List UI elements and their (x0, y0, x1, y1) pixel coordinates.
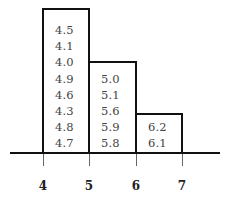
value-item: 4.3 (55, 103, 74, 119)
x-tick-5 (89, 154, 90, 166)
x-tick-label-5: 5 (79, 179, 99, 193)
value-item: 5.9 (101, 119, 120, 135)
bin-5-6-values: 5.0 5.1 5.6 5.9 5.8 (90, 71, 135, 151)
x-axis-line (10, 152, 220, 154)
x-tick-label-7: 7 (172, 179, 192, 193)
bin-5-6: 5.0 5.1 5.6 5.9 5.8 (88, 61, 137, 153)
bin-6-7: 6.2 6.1 (135, 113, 183, 153)
value-item: 5.8 (101, 135, 120, 151)
x-tick-4 (43, 154, 44, 166)
bin-4-5: 4.5 4.1 4.0 4.9 4.6 4.3 4.8 4.7 (42, 8, 90, 153)
value-item: 5.0 (101, 71, 120, 87)
value-item: 4.6 (55, 87, 74, 103)
value-item: 4.1 (55, 38, 74, 54)
value-item: 4.8 (55, 119, 74, 135)
value-item: 4.0 (55, 54, 74, 70)
bin-4-5-values: 4.5 4.1 4.0 4.9 4.6 4.3 4.8 4.7 (44, 22, 88, 151)
x-tick-label-4: 4 (33, 179, 53, 193)
x-tick-label-6: 6 (126, 179, 146, 193)
x-tick-7 (182, 154, 183, 166)
value-item: 4.5 (55, 22, 74, 38)
bin-6-7-values: 6.2 6.1 (137, 119, 181, 151)
value-item: 4.9 (55, 71, 74, 87)
value-item: 4.7 (55, 135, 74, 151)
value-item: 6.2 (148, 119, 167, 135)
value-item: 5.1 (101, 87, 120, 103)
value-item: 6.1 (148, 135, 167, 151)
x-tick-6 (136, 154, 137, 166)
value-item: 5.6 (101, 103, 120, 119)
